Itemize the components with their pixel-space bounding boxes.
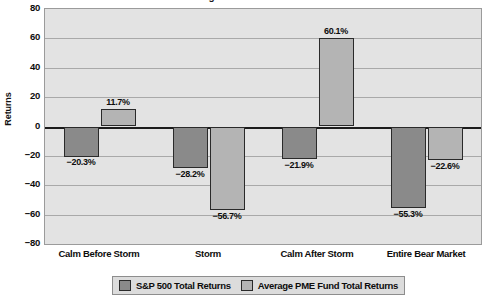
bar-value-label: 60.1% — [307, 26, 365, 36]
x-axis-tick-label: Calm After Storm — [257, 248, 377, 259]
bar — [210, 127, 245, 210]
y-axis-tick-label: −60 — [14, 208, 40, 219]
bar-chart: Earning the 2.0% Bear Market Returns 806… — [0, 0, 492, 300]
chart-title: Earning the 2.0% Bear Market — [0, 0, 492, 2]
legend-item[interactable]: S&P 500 Total Returns — [119, 280, 231, 291]
gridline — [45, 38, 481, 39]
y-axis-tick-label: 60 — [14, 31, 40, 42]
y-axis-tick-label: −20 — [14, 149, 40, 160]
y-axis-tick-label: 0 — [14, 120, 40, 131]
x-axis-tick-label: Entire Bear Market — [366, 248, 486, 259]
y-axis-tick-label: −40 — [14, 178, 40, 189]
y-axis-tick-label: 40 — [14, 61, 40, 72]
bar — [282, 127, 317, 159]
legend-item-label: S&P 500 Total Returns — [136, 280, 231, 291]
bar-value-label: −22.6% — [416, 161, 474, 171]
bar — [173, 127, 208, 168]
bar-value-label: −55.3% — [379, 209, 437, 219]
bar-value-label: 11.7% — [89, 97, 147, 107]
legend-item-label: Average PME Fund Total Returns — [258, 280, 398, 291]
bar — [101, 109, 136, 126]
y-axis-tick-label: 20 — [14, 90, 40, 101]
legend-color-swatch-icon — [241, 280, 253, 291]
bar-value-label: −21.9% — [270, 160, 328, 170]
y-axis-tick-label: −80 — [14, 237, 40, 248]
y-axis-tick-labels: 806040200−20−40−60−80 — [12, 0, 40, 300]
plot-area: −20.3%11.7%−28.2%−56.7%−21.9%60.1%−55.3%… — [44, 8, 482, 245]
legend-item[interactable]: Average PME Fund Total Returns — [241, 280, 398, 291]
bar-value-label: −20.3% — [52, 157, 110, 167]
x-axis-tick-label: Storm — [148, 248, 268, 259]
x-axis-tick-label: Calm Before Storm — [39, 248, 159, 259]
x-axis-tick-labels: Calm Before StormStormCalm After StormEn… — [44, 248, 482, 262]
gridline — [45, 68, 481, 69]
bar — [319, 38, 354, 126]
bar — [428, 127, 463, 160]
y-axis-tick-label: 80 — [14, 2, 40, 13]
bar — [64, 127, 99, 157]
legend-color-swatch-icon — [119, 280, 131, 291]
bar-value-label: −56.7% — [198, 211, 256, 221]
chart-legend: S&P 500 Total ReturnsAverage PME Fund To… — [112, 276, 405, 295]
